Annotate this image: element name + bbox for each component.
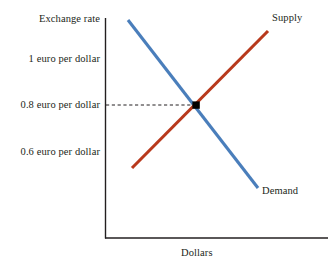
equilibrium-point-marker [192, 101, 199, 108]
y-axis-title: Exchange rate [39, 14, 100, 25]
y-tick-label-1-euro: 1 euro per dollar [29, 54, 100, 65]
demand-curve-label: Demand [262, 186, 298, 197]
chart-canvas [0, 0, 333, 269]
y-tick-label-0-6-euro: 0.6 euro per dollar [21, 147, 100, 158]
supply-curve-label: Supply [272, 13, 302, 24]
y-tick-label-0-8-euro: 0.8 euro per dollar [21, 100, 100, 111]
exchange-rate-supply-demand-figure: Exchange rate 1 euro per dollar 0.8 euro… [0, 0, 333, 269]
x-axis-title: Dollars [181, 248, 213, 259]
